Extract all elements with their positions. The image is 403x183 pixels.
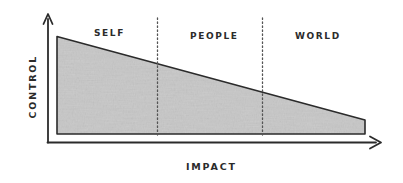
y-axis-label: CONTROL xyxy=(28,47,38,127)
x-axis-label: IMPACT xyxy=(186,162,237,172)
zone-label-world: WORLD xyxy=(295,32,341,41)
zone-label-people: PEOPLE xyxy=(190,32,238,41)
chart-canvas: SELF PEOPLE WORLD CONTROL IMPACT xyxy=(0,0,403,183)
y-axis xyxy=(44,14,53,143)
wedge-texture-vertical xyxy=(55,34,369,138)
zone-label-self: SELF xyxy=(94,29,125,38)
x-axis xyxy=(48,137,382,149)
control-impact-chart xyxy=(0,0,403,183)
control-area-wedge xyxy=(55,34,369,138)
